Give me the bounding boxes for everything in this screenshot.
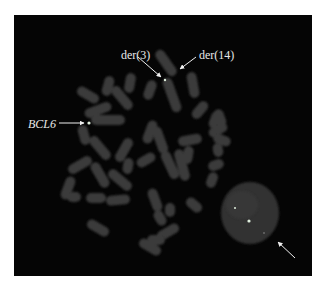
interphase-nucleus — [221, 182, 279, 244]
metaphase-spread — [14, 15, 312, 276]
fish-image-panel: der(3) der(14) BCL6 — [14, 15, 312, 276]
der14-label: der(14) — [199, 49, 234, 61]
der3-label: der(3) — [121, 49, 150, 61]
nucleus-arrow — [278, 242, 295, 258]
der14-arrow — [180, 57, 196, 69]
chromosomes — [59, 48, 232, 257]
bcl6-label: BCL6 — [28, 118, 56, 130]
